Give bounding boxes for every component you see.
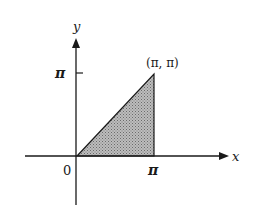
shaded-triangle-region bbox=[77, 74, 154, 156]
y-axis-arrow-icon bbox=[72, 38, 80, 48]
y-axis-label: y bbox=[72, 19, 81, 34]
x-tick-label-pi: π bbox=[147, 162, 159, 178]
x-axis-arrow-icon bbox=[219, 152, 229, 160]
x-axis-label: x bbox=[232, 149, 240, 164]
y-tick-label-pi: π bbox=[54, 65, 66, 81]
diagram-canvas: y x 0 π π (π, π) bbox=[0, 0, 253, 205]
point-label-pi-pi: (π, π) bbox=[146, 56, 179, 70]
origin-label: 0 bbox=[63, 163, 71, 178]
